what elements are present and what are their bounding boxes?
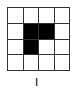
empty-cell: [39, 8, 55, 24]
empty-cell: [55, 40, 71, 56]
filled-cell: [24, 40, 40, 56]
empty-cell: [8, 8, 24, 24]
empty-cell: [39, 55, 55, 71]
filled-cell: [24, 24, 40, 40]
empty-cell: [24, 55, 40, 71]
empty-cell: [8, 24, 24, 40]
pattern-grid: [7, 7, 70, 71]
empty-cell: [55, 8, 71, 24]
filled-cell: [39, 24, 55, 40]
grid-label: I: [0, 76, 73, 90]
empty-cell: [55, 24, 71, 40]
empty-cell: [39, 40, 55, 56]
empty-cell: [8, 55, 24, 71]
empty-cell: [55, 55, 71, 71]
empty-cell: [8, 40, 24, 56]
empty-cell: [24, 8, 40, 24]
